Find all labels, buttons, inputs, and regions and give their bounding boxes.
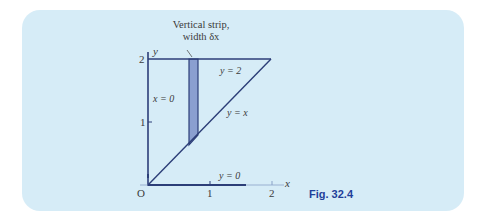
y-tick-label-1: 1	[140, 116, 146, 128]
line-y-equals-x	[148, 59, 271, 185]
figure-caption: Fig. 32.4	[309, 188, 353, 200]
annotation-line-2: width δx	[159, 31, 243, 43]
x-tick-label-2: 2	[269, 187, 275, 199]
label-y-equals-x: y = x	[227, 107, 248, 118]
x-axis-label: x	[285, 177, 290, 189]
label-y-equals-0: y = 0	[219, 170, 240, 181]
vertical-strip	[189, 59, 198, 145]
annotation-pointer	[187, 50, 192, 57]
label-y-equals-2: y = 2	[220, 65, 241, 76]
strip-annotation: Vertical strip, width δx	[159, 19, 243, 43]
label-x-equals-0: x = 0	[153, 93, 174, 104]
annotation-line-1: Vertical strip,	[159, 19, 243, 31]
x-tick-label-1: 1	[207, 187, 213, 199]
origin-label: O	[137, 187, 145, 199]
y-tick-label-2: 2	[139, 53, 145, 65]
y-axis-label: y	[153, 45, 158, 57]
